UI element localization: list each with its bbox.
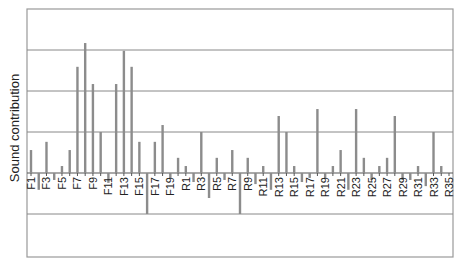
tick-label: F9 (87, 177, 99, 190)
tick-label: R27 (381, 177, 393, 197)
tick-label: R33 (428, 177, 440, 197)
tick-label: F1 (25, 177, 37, 190)
bar-r13 (278, 116, 280, 173)
bar-f13 (123, 51, 125, 173)
bar-chart: F1F3F5F7F9F11F13F15F17F19R1R3R5R7R9R11R1… (0, 0, 464, 267)
bar-f3 (45, 142, 47, 173)
bar-f18 (161, 125, 163, 173)
bar-r20 (332, 166, 334, 173)
bar-f20 (177, 158, 179, 173)
bar-r26 (378, 166, 380, 173)
tick-label: R7 (226, 177, 238, 191)
bar-f5 (61, 166, 63, 173)
bar-r18 (316, 109, 318, 173)
tick-label: R5 (211, 177, 223, 191)
tick-label: F15 (133, 177, 145, 196)
tick-label: F5 (56, 177, 68, 190)
tick-label: R17 (304, 177, 316, 197)
tick-label: R25 (366, 177, 378, 197)
tick-label: F17 (149, 177, 161, 196)
bar-f9 (92, 84, 94, 173)
bar-r28 (394, 116, 396, 173)
tick-label: R35 (443, 177, 455, 197)
tick-label: F13 (118, 177, 130, 196)
tick-label: R19 (319, 177, 331, 197)
tick-label: R29 (397, 177, 409, 197)
tick-label: R23 (350, 177, 362, 197)
tick-label: R15 (288, 177, 300, 197)
bar-r34 (440, 166, 442, 173)
bar-f10 (99, 132, 101, 173)
bar-f14 (130, 67, 132, 173)
tick-label: F11 (102, 177, 114, 195)
bar-r14 (285, 132, 287, 173)
tick-label: R3 (195, 177, 207, 191)
tick-label: F7 (71, 177, 83, 190)
bar-r1 (185, 166, 187, 173)
tick-label: F3 (40, 177, 52, 190)
bar-r21 (339, 150, 341, 173)
tick-label: R21 (335, 177, 347, 197)
plot-frame (27, 9, 453, 257)
bar-r31 (417, 166, 419, 173)
bar-r24 (363, 158, 365, 173)
tick-label: R11 (257, 177, 269, 196)
tick-label: R13 (273, 177, 285, 197)
bar-r15 (293, 166, 295, 173)
bar-r27 (386, 158, 388, 173)
bar-r7 (231, 150, 233, 173)
tick-label: R1 (180, 177, 192, 191)
bar-r5 (216, 158, 218, 173)
tick-label: F19 (164, 177, 176, 196)
bar-f12 (115, 84, 117, 173)
bar-f15 (138, 142, 140, 173)
bar-r23 (355, 109, 357, 173)
bar-r33 (432, 132, 434, 173)
bar-f8 (84, 43, 86, 173)
bar-r3 (200, 132, 202, 173)
bar-f6 (69, 150, 71, 173)
bar-f17 (154, 142, 156, 173)
tick-label: R31 (412, 177, 424, 197)
tick-label: R9 (242, 177, 254, 191)
bar-r9 (247, 158, 249, 173)
bar-f1 (30, 150, 32, 173)
bar-r11 (262, 166, 264, 173)
bar-f7 (76, 67, 78, 173)
